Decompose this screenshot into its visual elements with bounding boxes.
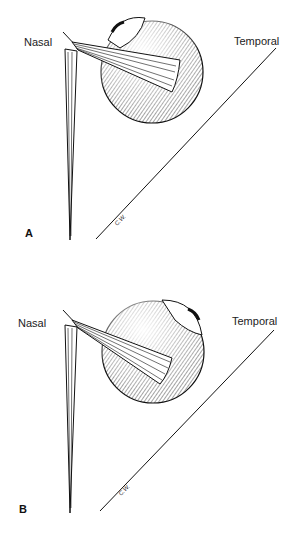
nasal-label-a: Nasal xyxy=(24,36,52,48)
eye-muscle-illustration: C.W. C.W. xyxy=(0,0,299,535)
panel-label-a: A xyxy=(25,227,33,239)
artist-signature-a: C.W. xyxy=(113,213,127,227)
temporal-label-b: Temporal xyxy=(232,315,277,327)
temporal-label-a: Temporal xyxy=(234,35,279,47)
panel-label-b: B xyxy=(19,503,27,515)
artist-signature-b: C.W. xyxy=(117,483,131,497)
nasal-label-b: Nasal xyxy=(18,317,46,329)
